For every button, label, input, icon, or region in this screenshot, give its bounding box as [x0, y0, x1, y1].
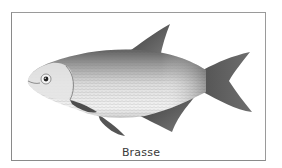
- fish-illustration: [0, 0, 282, 168]
- figure-caption: Brasse: [0, 146, 282, 159]
- tail-fin: [203, 52, 252, 112]
